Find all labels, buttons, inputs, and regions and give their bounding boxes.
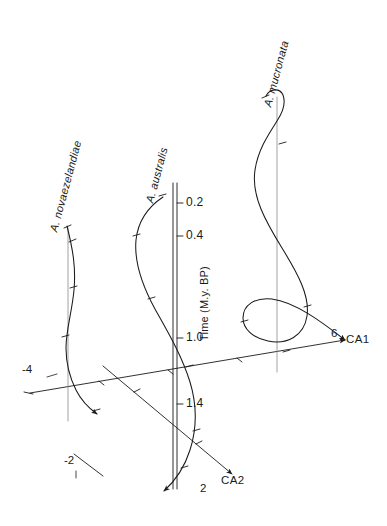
time-tick-label-0-2: 0.2	[186, 196, 204, 208]
time-axis-line	[173, 183, 177, 489]
ca2-max-label: 2	[200, 483, 206, 495]
figure-canvas: 0.2 0.4 1.0 1.4 Time (M.y. BP) -4 6 CA1 …	[0, 0, 387, 526]
ca2-axis-label: CA2	[221, 475, 245, 487]
time-axis-title: Time (M.y. BP)	[199, 266, 210, 341]
time-axis-ticks	[177, 203, 183, 404]
time-tick-label-0-4: 0.4	[186, 229, 204, 241]
ca2-min-label: -2	[64, 455, 74, 467]
leader-line-ca1-min	[47, 374, 57, 377]
ca1-max-label: 6	[331, 328, 337, 340]
ca1-axis-label: CA1	[346, 334, 370, 346]
plot-vector-layer	[0, 0, 387, 526]
trajectory-mucronata	[243, 90, 345, 342]
sample-ticks-mucronata	[241, 95, 311, 352]
ca2-axis-line	[74, 366, 232, 476]
time-tick-label-1-4: 1.4	[186, 397, 204, 409]
ca1-min-label: -4	[22, 364, 32, 376]
